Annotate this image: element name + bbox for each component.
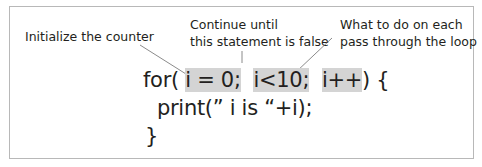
code-condition-highlight: i<10;	[253, 68, 309, 92]
code-for-keyword: for(	[143, 68, 179, 92]
code-line-body: print(” i is “+i);	[157, 96, 312, 121]
code-line-for: for( i = 0; i<10; i++) {	[143, 68, 389, 93]
leader-line-step	[296, 38, 332, 72]
code-line-close: }	[145, 124, 158, 149]
code-close-paren: ) {	[362, 68, 389, 92]
code-init-highlight: i = 0;	[185, 68, 240, 92]
code-step-highlight: i++	[322, 68, 362, 92]
